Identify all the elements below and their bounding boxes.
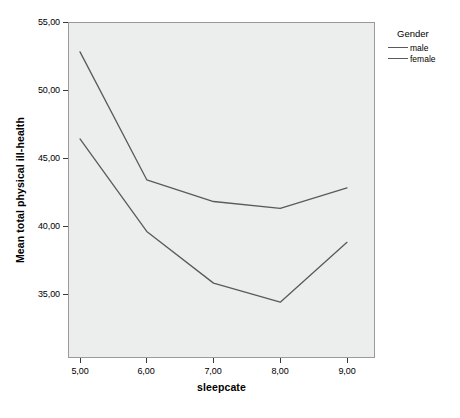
x-tick-mark [80,358,81,363]
y-tick-mark [63,22,68,23]
y-tick-mark [63,294,68,295]
x-tick-mark [146,358,147,363]
legend-line-swatch-female [388,58,408,59]
y-tick-label: 45,00 [38,153,60,163]
x-tick-mark [280,358,281,363]
y-tick-label: 40,00 [38,221,60,231]
x-tick: 7,00 [193,358,233,376]
y-tick-label: 35,00 [38,289,60,299]
x-tick-mark [347,358,348,363]
x-axis-title: sleepcate [68,381,375,393]
x-tick: 6,00 [126,358,166,376]
legend-item-female[interactable]: female [388,53,458,64]
y-tick-mark [63,158,68,159]
y-tick: 50,00 [38,84,68,96]
x-tick: 9,00 [327,358,367,376]
y-tick-label: 55,00 [38,17,60,27]
y-axis-title: Mean total physical ill-health [14,22,30,358]
x-tick-label: 6,00 [126,366,166,376]
y-tick: 45,00 [38,152,68,164]
x-tick-label: 9,00 [327,366,367,376]
x-tick-label: 5,00 [60,366,100,376]
x-tick: 8,00 [260,358,300,376]
legend-line-swatch-male [388,47,408,48]
plot-area [68,22,375,358]
x-tick-label: 7,00 [193,366,233,376]
legend-label-female: female [410,54,436,64]
legend-label-male: male [410,43,428,53]
y-tick-label: 50,00 [38,85,60,95]
y-tick-mark [63,90,68,91]
y-tick: 35,00 [38,288,68,300]
y-tick: 55,00 [38,16,68,28]
legend: Gender male female [388,28,458,64]
y-tick: 40,00 [38,220,68,232]
line-chart: 55,00 50,00 45,00 40,00 35,00 Mean total… [0,0,460,418]
y-axis: 55,00 50,00 45,00 40,00 35,00 [0,0,68,418]
legend-title: Gender [397,28,458,39]
x-tick-mark [213,358,214,363]
x-tick-label: 8,00 [260,366,300,376]
legend-item-male[interactable]: male [388,42,458,53]
y-tick-mark [63,226,68,227]
x-tick: 5,00 [60,358,100,376]
